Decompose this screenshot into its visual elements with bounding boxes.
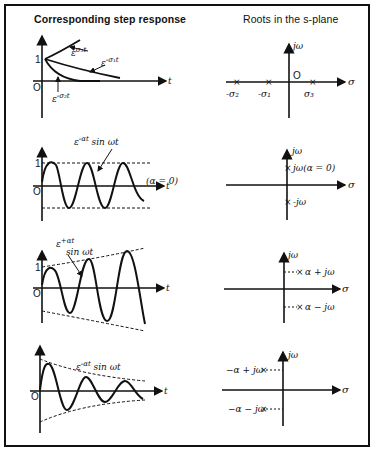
row1-step-response-plot: 1 O t εσ₃t ε-σ₁t ε-σ₂t [33,36,172,118]
svg-text:×: × [233,77,241,87]
svg-text:jω(α = 0): jω(α = 0) [291,163,336,173]
root-label: σ₃ [304,89,314,99]
row2-s-plane-plot: jω σ × × jω(α = 0) -jω [226,146,356,220]
svg-text:O: O [293,70,301,81]
svg-text:1: 1 [35,262,41,273]
svg-text:−α − jω: −α − jω [228,404,266,414]
svg-text:×: × [309,77,317,87]
svg-text:σ: σ [342,384,350,395]
svg-text:t: t [166,283,170,293]
row3-step-response-plot: 1 O t ε+αt sin ωt [33,237,170,331]
svg-text:×: × [296,267,304,277]
svg-text:α − jω: α − jω [305,302,335,312]
root-label: -σ₁ [258,89,271,99]
svg-text:α + jω: α + jω [305,267,335,277]
row4-step-response-plot: O t ε-αt sin ωt [30,346,168,433]
svg-text:jω: jω [286,350,299,360]
svg-text:σ: σ [348,179,356,190]
svg-text:×: × [296,302,304,312]
svg-text:ε-σ₂t: ε-σ₂t [52,92,70,104]
sigma-axis-label: σ [348,76,356,87]
row3-s-plane-plot: jω σ × × α + jω α − jω [224,250,350,323]
svg-text:ε-αt sin ωt: ε-αt sin ωt [76,360,121,372]
svg-text:1: 1 [35,158,41,169]
svg-text:t: t [164,386,168,396]
row4-s-plane-plot: jω σ × × −α + jω −α − jω [222,350,350,426]
row1-s-plane-plot: jω σ O × × × -σ₂ -σ₁ σ₃ [226,41,356,118]
svg-text:ε-σ₁t: ε-σ₁t [101,56,119,68]
svg-text:O: O [31,391,39,402]
jw-axis-label: jω [291,41,304,51]
alpha-zero-note: (α = 0) [146,176,179,186]
unit-tick-label: 1 [35,54,41,65]
svg-text:O: O [33,288,41,299]
svg-text:sin ωt: sin ωt [66,247,93,257]
svg-text:εσ₃t: εσ₃t [71,46,86,58]
svg-text:-jω: -jω [293,197,307,207]
svg-text:×: × [284,163,292,173]
svg-text:ε-αt sin ωt: ε-αt sin ωt [74,135,119,147]
diagram-canvas: 1 O t εσ₃t ε-σ₁t ε-σ₂t jω σ O × × × -σ₂ … [0,0,374,453]
svg-text:×: × [265,77,273,87]
svg-text:O: O [33,186,41,197]
svg-text:×: × [284,197,292,207]
svg-text:jω: jω [286,250,299,260]
root-label: -σ₂ [226,89,239,99]
svg-text:−α + jω: −α + jω [226,365,264,375]
t-axis-label: t [168,76,172,86]
svg-text:jω: jω [290,146,303,156]
row2-step-response-plot: 1 O t ε-αt sin ωt (α = 0) [33,135,179,221]
svg-text:σ: σ [342,283,350,294]
origin-label: O [33,82,41,93]
